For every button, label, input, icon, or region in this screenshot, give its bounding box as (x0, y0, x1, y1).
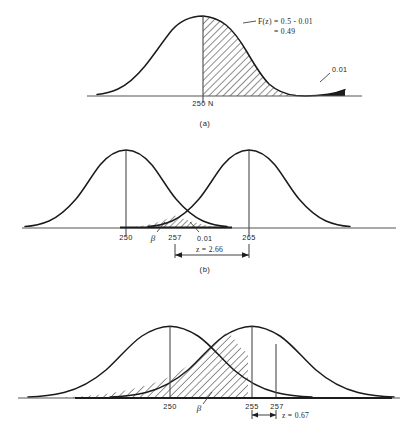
panel-a-tail-label: 0.01 (332, 65, 347, 74)
panel-b-baseline-emphasis (120, 226, 232, 228)
figure-root: F(z) = 0.5 - 0.01 = 0.49 0.01 250 N (a) … (0, 0, 418, 421)
panel-b-tick-250: 250 (119, 233, 133, 242)
panel-b-alpha-label: 0.01 (197, 234, 212, 243)
panel-c: 250 255 257 β z = 0.67 (18, 326, 400, 420)
panel-c-tick-255: 255 (245, 402, 259, 411)
panel-a: F(z) = 0.5 - 0.01 = 0.49 0.01 250 N (a) (87, 10, 362, 128)
panel-a-formula-line2: = 0.49 (274, 27, 295, 36)
panel-b-z-label: z = 2.66 (196, 245, 223, 254)
panel-c-beta-label: β (196, 403, 202, 413)
panel-b-dim-arrow-left (175, 252, 182, 258)
panel-c-beta-area (55, 330, 251, 400)
panel-a-tail-leader (320, 73, 330, 82)
panel-a-caption: (a) (200, 119, 211, 128)
panel-a-formula-line1: F(z) = 0.5 - 0.01 (258, 17, 313, 26)
panel-a-formula-leader (243, 21, 256, 23)
panel-b: 250 257 265 β 0.01 z = 2.66 (b) (22, 150, 396, 274)
panel-b-dim-arrow-right (242, 252, 249, 258)
panel-b-tick-265: 265 (242, 233, 256, 242)
panel-b-tick-257: 257 (168, 233, 182, 242)
panel-c-dim-arrow-left (252, 412, 258, 417)
statistics-figure: F(z) = 0.5 - 0.01 = 0.49 0.01 250 N (a) … (0, 0, 418, 421)
panel-c-dim-arrow-right (270, 412, 276, 417)
panel-b-caption: (b) (200, 265, 211, 274)
panel-c-z-label: z = 0.67 (282, 411, 309, 420)
panel-c-tick-257: 257 (270, 402, 284, 411)
panel-c-baseline-emphasis (75, 397, 392, 399)
panel-a-tick-250: 250 N (192, 99, 214, 108)
panel-b-beta-label: β (150, 233, 156, 243)
panel-c-tick-250: 250 (163, 402, 177, 411)
